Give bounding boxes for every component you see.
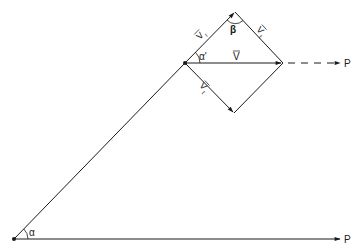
diagonal-line <box>14 63 185 239</box>
p-label-top: P <box>344 58 351 69</box>
vector-diagram: P α P α' β V V r V t V t <box>0 0 361 251</box>
p-label-bottom: P <box>344 234 351 245</box>
v-label: V <box>233 51 240 62</box>
origin-point <box>12 237 16 241</box>
alpha-arc <box>24 229 28 239</box>
vt-upper-label: V t <box>253 25 268 40</box>
beta-label: β <box>230 24 236 35</box>
lower-right-line <box>234 63 283 113</box>
svg-text:V: V <box>198 81 209 92</box>
svg-text:V: V <box>233 51 240 62</box>
alpha-label: α <box>29 227 35 238</box>
vt-lower-vector <box>185 63 233 112</box>
vr-vector <box>185 13 234 63</box>
alpha-prime-label: α' <box>199 51 207 62</box>
